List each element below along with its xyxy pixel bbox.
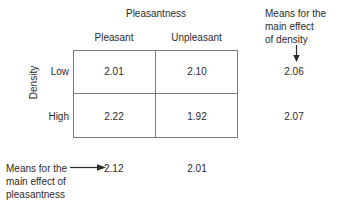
row-mean-high: 2.07 xyxy=(265,110,323,123)
row-header-high: High xyxy=(41,110,69,123)
means-table-figure: Pleasantness Pleasant Unpleasant Density… xyxy=(0,0,337,205)
table-cell-low-unpleasant: 2.10 xyxy=(156,65,238,78)
table-column-divider xyxy=(155,50,156,138)
column-means-annotation-line-2: main effect of xyxy=(6,175,82,188)
column-mean-unpleasant: 2.01 xyxy=(156,162,238,175)
row-means-annotation: Means for the main effect of density xyxy=(265,7,337,46)
column-header-unpleasant: Unpleasant xyxy=(155,31,238,44)
row-header-low: Low xyxy=(41,65,69,78)
column-mean-pleasant: 2.12 xyxy=(104,162,144,175)
column-means-annotation-line-3: pleasantness xyxy=(6,188,82,201)
column-header-pleasant: Pleasant xyxy=(73,31,155,44)
row-means-annotation-line-1: Means for the xyxy=(265,7,337,20)
row-mean-low: 2.06 xyxy=(265,65,323,78)
table-cell-low-pleasant: 2.01 xyxy=(73,65,155,78)
table-cell-high-pleasant: 2.22 xyxy=(73,110,155,123)
row-factor-title: Density xyxy=(27,48,40,118)
arrow-down-icon xyxy=(292,45,301,62)
row-means-annotation-line-2: main effect xyxy=(265,20,337,33)
row-means-annotation-line-3: of density xyxy=(265,33,337,46)
table-cell-high-unpleasant: 1.92 xyxy=(156,110,238,123)
arrow-right-icon xyxy=(70,163,106,172)
column-factor-title: Pleasantness xyxy=(106,7,206,20)
